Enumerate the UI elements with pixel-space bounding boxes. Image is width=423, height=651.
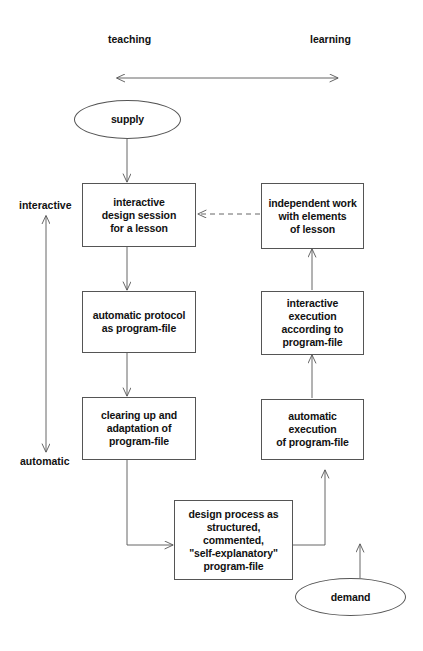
- node-independent-work[interactable]: independent workwith elementsof lesson: [261, 183, 364, 249]
- node-interactive-design-session-label: interactivedesign sessionfor a lesson: [100, 196, 178, 235]
- diagram-canvas: teaching learning interactive automatic …: [0, 0, 423, 651]
- node-independent-work-label: independent workwith elementsof lesson: [266, 197, 358, 236]
- node-supply[interactable]: supply: [74, 100, 181, 139]
- axis-label-learning: learning: [310, 33, 351, 46]
- node-design-process-label: design process asstructured,commented,"s…: [187, 508, 281, 573]
- node-automatic-execution[interactable]: automatic executionof program-file: [261, 399, 364, 460]
- node-interactive-execution-label: interactive executionaccording toprogram…: [262, 297, 363, 349]
- axis-label-interactive: interactive: [19, 199, 72, 212]
- node-automatic-protocol[interactable]: automatic protocolas program-file: [82, 291, 196, 353]
- node-clearing-up-adaptation[interactable]: clearing up andadaptation ofprogram-file: [82, 397, 196, 460]
- node-demand[interactable]: demand: [295, 578, 406, 616]
- node-supply-label: supply: [109, 113, 146, 126]
- node-clearing-up-adaptation-label: clearing up andadaptation ofprogram-file: [99, 409, 179, 448]
- node-interactive-design-session[interactable]: interactivedesign sessionfor a lesson: [82, 183, 196, 247]
- node-automatic-protocol-label: automatic protocolas program-file: [91, 309, 188, 335]
- node-automatic-execution-label: automatic executionof program-file: [262, 410, 363, 449]
- node-interactive-execution[interactable]: interactive executionaccording toprogram…: [261, 291, 364, 355]
- node-demand-label: demand: [329, 591, 373, 604]
- axis-label-automatic: automatic: [20, 455, 70, 468]
- node-design-process[interactable]: design process asstructured,commented,"s…: [174, 500, 293, 580]
- edge-designprocess-to-autoexec: [293, 470, 325, 545]
- axis-label-teaching: teaching: [108, 33, 151, 46]
- edge-clearing-to-designprocess: [127, 460, 173, 545]
